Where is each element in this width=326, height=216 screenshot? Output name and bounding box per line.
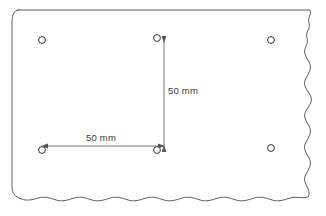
hole-bottom-right	[268, 145, 275, 152]
hole-top-left	[39, 37, 46, 44]
vertical-dimension-label: 50 mm	[168, 85, 198, 96]
sheet-outline	[12, 10, 311, 201]
drawing-canvas: 50 mm 50 mm	[0, 0, 326, 216]
technical-drawing: 50 mm 50 mm	[0, 0, 326, 216]
hole-bottom-middle	[154, 147, 161, 154]
hole-bottom-left	[39, 147, 46, 154]
hole-top-right	[268, 37, 275, 44]
hole-top-middle	[154, 35, 161, 42]
horizontal-dimension-label: 50 mm	[86, 132, 116, 143]
